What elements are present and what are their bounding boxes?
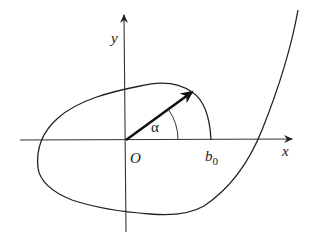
angle-label: α [151,120,159,135]
origin-label: O [130,151,141,166]
b0-label: b0 [205,149,218,164]
b0-base: b [205,148,213,164]
b0-subscript: 0 [213,155,219,167]
y-axis [124,15,126,232]
x-axis-label: x [282,144,289,159]
diagram-canvas: y x O α b0 [0,0,313,242]
angle-arc [168,109,178,140]
radius-vector [126,92,192,140]
y-axis-label: y [111,31,118,46]
polar-curve [38,10,298,215]
x-axis [20,139,292,140]
